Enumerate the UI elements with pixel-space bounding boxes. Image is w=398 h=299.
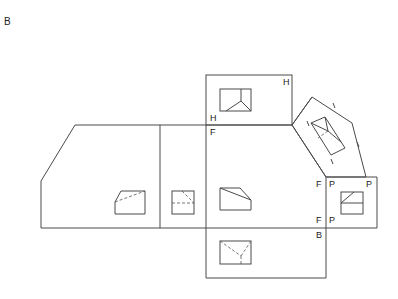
label-fp-bottom-p: P bbox=[329, 215, 335, 225]
label-b: B bbox=[316, 230, 322, 240]
top-view-box bbox=[206, 75, 292, 125]
label-f-fold: F bbox=[210, 127, 216, 137]
label-fp-top-p: P bbox=[329, 179, 335, 189]
bottom-view-box bbox=[206, 228, 326, 278]
left-side-view bbox=[115, 191, 145, 214]
rear-side-view bbox=[172, 191, 194, 214]
front-view-box bbox=[206, 125, 326, 278]
orthographic-projection-diagram: B bbox=[0, 0, 398, 299]
left-panel-outline bbox=[41, 125, 206, 228]
auxiliary-fold-lines bbox=[292, 97, 326, 177]
label-p-top-right: P bbox=[366, 179, 372, 189]
figure-label: B bbox=[4, 16, 11, 27]
label-h-fold: H bbox=[210, 113, 217, 123]
label-h-top: H bbox=[283, 77, 290, 87]
auxiliary-view bbox=[292, 97, 366, 177]
label-fp-bottom-f: F bbox=[316, 215, 322, 225]
label-fp-top-f: F bbox=[316, 179, 322, 189]
